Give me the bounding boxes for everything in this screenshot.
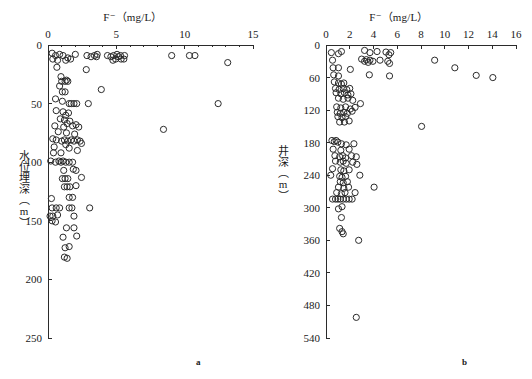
- data-point: [357, 172, 363, 178]
- data-point: [352, 189, 358, 195]
- data-point: [377, 57, 383, 63]
- data-point: [71, 213, 77, 219]
- panel-a-ytick-0: 0: [8, 39, 42, 51]
- panel-b-ytick-540: 540: [286, 332, 320, 344]
- data-point: [335, 139, 341, 145]
- panel-b-ytick-420: 420: [286, 267, 320, 279]
- data-point: [57, 116, 63, 122]
- data-point: [452, 65, 458, 71]
- panel-a-ytick-100: 100: [8, 156, 42, 168]
- panel-b-ytick-60: 60: [286, 72, 320, 84]
- data-point: [61, 124, 67, 130]
- panel-a-xtick-5: 5: [114, 28, 120, 40]
- panel-b-ytick-300: 300: [286, 202, 320, 214]
- data-point: [74, 233, 80, 239]
- panel-a-ytick-200: 200: [8, 273, 42, 285]
- data-point: [72, 51, 78, 57]
- data-point: [87, 205, 93, 211]
- panel-a-xtick-15: 15: [248, 28, 259, 40]
- data-point: [356, 237, 362, 243]
- data-point: [66, 145, 72, 151]
- panel-a-ytick-150: 150: [8, 215, 42, 227]
- data-point: [52, 96, 58, 102]
- panel-b-ytick-240: 240: [286, 169, 320, 181]
- data-point: [78, 174, 84, 180]
- panel-b-ytick-120: 120: [286, 104, 320, 116]
- data-point: [63, 130, 69, 136]
- panel-b-xtick-2: 2: [347, 28, 353, 40]
- panel-a: F⁻（mg/L） 水位埋深（m） a 051015050100150200250: [0, 0, 266, 379]
- data-point: [98, 86, 104, 92]
- data-point: [490, 74, 496, 80]
- data-point: [50, 150, 56, 156]
- data-point: [386, 73, 392, 79]
- data-point: [215, 101, 221, 107]
- panel-b-xtick-8: 8: [418, 28, 424, 40]
- panel-b-ytick-180: 180: [286, 137, 320, 149]
- data-point: [347, 66, 353, 72]
- data-point: [342, 189, 348, 195]
- data-point: [72, 131, 78, 137]
- data-point: [48, 195, 54, 201]
- data-point: [366, 72, 372, 78]
- panel-b-xtick-14: 14: [487, 28, 498, 40]
- data-point: [54, 64, 60, 70]
- data-point: [331, 79, 337, 85]
- data-point: [418, 123, 424, 129]
- panel-b-xtick-6: 6: [395, 28, 401, 40]
- panel-b-xtick-16: 16: [511, 28, 522, 40]
- data-point: [329, 166, 335, 172]
- data-point: [58, 150, 64, 156]
- data-point: [55, 129, 61, 135]
- panel-b-xtick-0: 0: [323, 28, 329, 40]
- panel-b-xtick-4: 4: [371, 28, 377, 40]
- panel-a-ytick-250: 250: [8, 332, 42, 344]
- panel-b-xtick-10: 10: [439, 28, 450, 40]
- data-point: [59, 98, 65, 104]
- data-point: [52, 123, 58, 129]
- data-point: [329, 57, 335, 63]
- data-point: [71, 225, 77, 231]
- panel-b-ytick-0: 0: [286, 39, 320, 51]
- panel-a-ytick-50: 50: [8, 98, 42, 110]
- data-point: [374, 48, 380, 54]
- data-point: [53, 108, 59, 114]
- panel-b: F⁻（mg/L） 井深（m） b 02468101214160601201802…: [266, 0, 532, 379]
- data-point: [85, 101, 91, 107]
- data-point: [367, 50, 373, 56]
- data-point: [83, 67, 89, 73]
- panel-a-xtick-10: 10: [179, 28, 190, 40]
- data-point: [74, 147, 80, 153]
- data-point: [473, 72, 479, 78]
- data-point: [328, 50, 334, 56]
- panel-a-xtick-0: 0: [45, 28, 51, 40]
- panel-b-ytick-360: 360: [286, 234, 320, 246]
- panel-b-ytick-480: 480: [286, 299, 320, 311]
- panel-b-points: [328, 47, 496, 320]
- panel-b-plot: [266, 0, 532, 379]
- data-point: [84, 52, 90, 58]
- data-point: [51, 144, 57, 150]
- data-point: [169, 52, 175, 58]
- data-point: [225, 59, 231, 65]
- data-point: [66, 243, 72, 249]
- data-point: [60, 234, 66, 240]
- data-point: [160, 126, 166, 132]
- data-point: [346, 146, 352, 152]
- data-point: [371, 184, 377, 190]
- data-point: [73, 183, 79, 189]
- panel-a-letter: a: [196, 357, 201, 367]
- data-point: [338, 214, 344, 220]
- data-point: [351, 141, 357, 147]
- panel-a-plot: [0, 0, 266, 379]
- panel-a-points: [47, 50, 231, 261]
- figure-container: F⁻（mg/L） 水位埋深（m） a 051015050100150200250…: [0, 0, 532, 379]
- panel-b-letter: b: [462, 357, 467, 367]
- data-point: [340, 231, 346, 237]
- data-point: [61, 167, 67, 173]
- data-point: [432, 57, 438, 63]
- data-point: [353, 314, 359, 320]
- data-point: [62, 245, 68, 251]
- data-point: [330, 146, 336, 152]
- panel-b-xtick-12: 12: [463, 28, 474, 40]
